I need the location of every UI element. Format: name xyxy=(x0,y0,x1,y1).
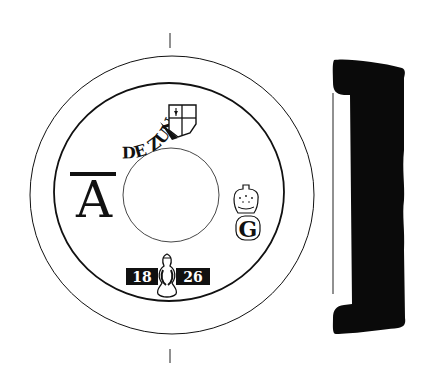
date-left: 18 xyxy=(132,269,151,285)
monogram-letter: A xyxy=(75,171,113,229)
date-right: 26 xyxy=(183,269,202,285)
crown-letter: G xyxy=(239,216,258,242)
monogram-a-mark: A xyxy=(70,171,116,229)
profile-solid-section xyxy=(333,59,405,334)
drawing-canvas: A DE ZUN G 18 26 xyxy=(0,0,424,384)
crown-letter-mark: G xyxy=(236,216,260,242)
monogram-top-bar xyxy=(70,172,116,176)
section-profile xyxy=(333,59,405,334)
inner-hole-circle xyxy=(123,148,219,242)
flame-emblem-icon xyxy=(157,254,176,297)
crown-icon xyxy=(234,185,258,213)
date-stamp: 18 26 xyxy=(126,254,210,297)
